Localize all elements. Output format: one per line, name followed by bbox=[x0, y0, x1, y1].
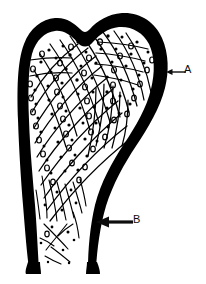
label-a-text: A bbox=[184, 64, 191, 75]
cortex-bottom-flare-left bbox=[26, 262, 41, 274]
label-b-text: B bbox=[133, 214, 140, 225]
bone-diagram-svg bbox=[0, 0, 206, 284]
bone-section-figure: A B bbox=[0, 0, 206, 284]
